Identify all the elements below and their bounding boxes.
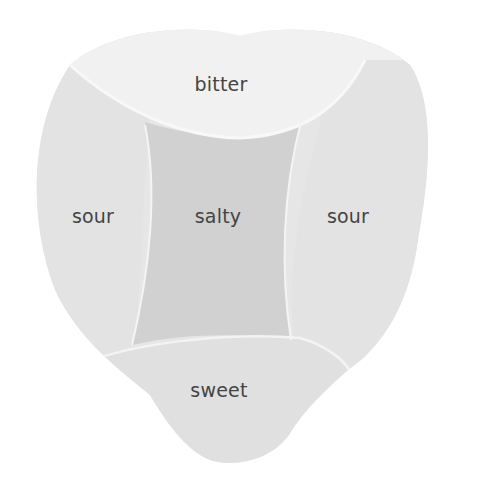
tongue-taste-map: bitter sour salty sour sweet	[0, 0, 479, 483]
label-sour-left: sour	[72, 205, 114, 227]
label-bitter: bitter	[195, 73, 248, 95]
label-sour-right: sour	[327, 205, 369, 227]
region-sweet	[0, 336, 479, 483]
label-salty: salty	[195, 205, 242, 227]
region-salty	[132, 120, 301, 345]
label-sweet: sweet	[190, 379, 247, 401]
